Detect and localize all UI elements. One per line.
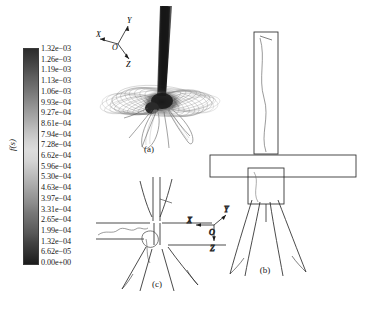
panel-c: X Y Z O (c) (96, 165, 231, 305)
figure-root: f(s) 1.32e−03 1.26e−03 1.19e−03 1.13e−03… (0, 0, 371, 309)
panel-c-label: (c) (142, 279, 172, 289)
triad-a-z-label: Z (126, 60, 131, 69)
panel-c-plane-lines (96, 223, 226, 245)
panel-b-abdomen (254, 32, 278, 154)
panel-b-label: (b) (250, 265, 280, 275)
triad-a-origin-label: O (112, 43, 118, 52)
panel-c-wave-trace (98, 228, 148, 235)
triad-c-z-label: Z (210, 244, 215, 253)
insect-abdomen (157, 6, 172, 96)
triad-a-y-label: Y (127, 16, 133, 25)
colorbar-axis-label: f(s) (7, 125, 17, 165)
triad-a-x-label: X (95, 30, 102, 39)
triad-c-y-label: Y (224, 205, 230, 214)
panel-a-label: (a) (134, 144, 164, 154)
triad-c-origin-label: O (209, 228, 215, 237)
panel-b-wing-plane (210, 155, 356, 177)
triad-c-x-label: X (186, 216, 193, 225)
panel-b-thorax (248, 168, 284, 204)
colorbar-gradient (23, 48, 39, 265)
panel-c-upper-wings (140, 177, 172, 221)
